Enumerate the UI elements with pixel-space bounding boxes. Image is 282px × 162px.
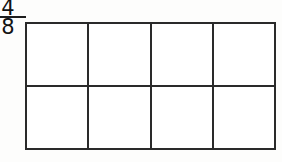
grid-cell-r1c1[interactable]: [27, 24, 89, 87]
grid-cell-r2c2[interactable]: [89, 87, 151, 150]
worksheet-canvas: 4 8: [0, 0, 282, 162]
grid-row: [27, 24, 276, 87]
grid-cell-r2c1[interactable]: [27, 87, 89, 150]
grid-row: [27, 87, 276, 150]
fraction-denominator: 8: [0, 17, 19, 37]
fraction-label: 4 8: [0, 0, 27, 40]
grid-cell-r1c3[interactable]: [152, 24, 214, 87]
grid-cell-r1c2[interactable]: [89, 24, 151, 87]
grid-cell-r2c3[interactable]: [152, 87, 214, 150]
grid-cell-r1c4[interactable]: [214, 24, 276, 87]
grid-cell-r2c4[interactable]: [214, 87, 276, 150]
fraction-area-model-grid: [25, 22, 276, 150]
